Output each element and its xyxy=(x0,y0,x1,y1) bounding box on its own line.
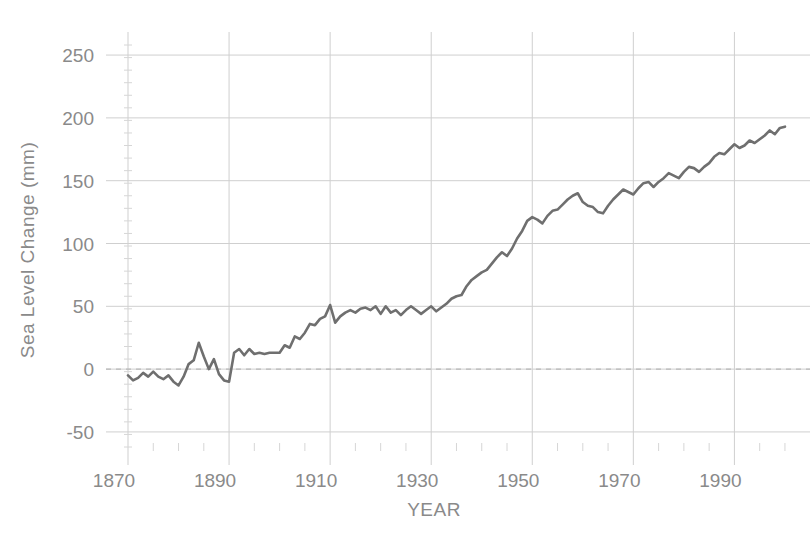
y-tick-label: 200 xyxy=(62,108,94,129)
x-tick-label: 1990 xyxy=(699,470,741,491)
y-tick-label: 0 xyxy=(83,359,94,380)
x-tick-label: 1950 xyxy=(497,470,539,491)
x-tick-label: 1970 xyxy=(598,470,640,491)
y-tick-label: -50 xyxy=(67,422,94,443)
y-axis-title: Sea Level Change (mm) xyxy=(17,142,38,358)
x-tick-label: 1930 xyxy=(396,470,438,491)
y-tick-label: 100 xyxy=(62,234,94,255)
y-tick-label: 150 xyxy=(62,171,94,192)
sea-level-chart: -50050100150200250 187018901910193019501… xyxy=(0,0,810,553)
y-tick-label: 250 xyxy=(62,45,94,66)
x-tick-label: 1910 xyxy=(295,470,337,491)
x-tick-label: 1890 xyxy=(194,470,236,491)
x-axis-title: YEAR xyxy=(407,499,461,520)
x-tick-label: 1870 xyxy=(93,470,135,491)
y-tick-label: 50 xyxy=(73,296,94,317)
chart-canvas: -50050100150200250 187018901910193019501… xyxy=(0,0,810,553)
